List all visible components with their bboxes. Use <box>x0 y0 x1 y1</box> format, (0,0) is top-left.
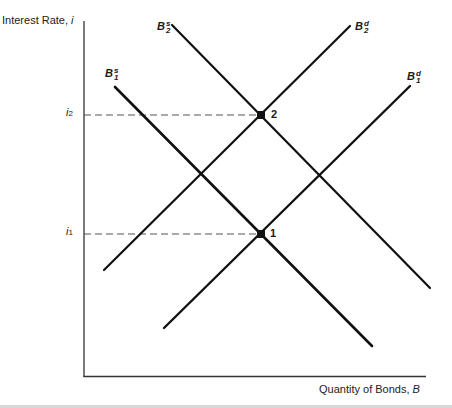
label-b1d: Bd1 <box>407 70 421 84</box>
label-b2s-sub: 2 <box>166 27 170 34</box>
supply-curve-b2s <box>172 25 430 288</box>
label-b2s: Bs2 <box>157 20 170 34</box>
label-b2s-base: B <box>157 20 165 32</box>
y-axis-label: Interest Rate, i <box>2 14 74 26</box>
supply-curve-b1s <box>115 87 372 346</box>
tick-i2: i2 <box>66 106 73 118</box>
y-axis-label-text: Interest Rate, <box>2 14 71 26</box>
equilibrium-point-2 <box>257 111 265 119</box>
y-axis-label-var: i <box>71 14 73 26</box>
demand-curve-b2d <box>104 26 350 270</box>
x-axis-label-text: Quantity of Bonds, <box>319 383 413 395</box>
tick-i1: i1 <box>66 225 73 237</box>
tick-i2-sub: 2 <box>68 109 72 118</box>
point-label-2: 2 <box>271 108 277 120</box>
point-label-1: 1 <box>270 227 276 239</box>
label-b1d-sub: 1 <box>416 77 421 84</box>
label-b2d: Bd2 <box>355 20 369 34</box>
label-b2d-base: B <box>355 20 363 32</box>
equilibrium-point-1 <box>257 230 265 238</box>
x-axis-label-var: B <box>413 383 420 395</box>
label-b1s-base: B <box>105 67 113 79</box>
tick-i1-sub: 1 <box>68 228 72 237</box>
label-b1d-base: B <box>407 70 415 82</box>
label-b1s: Bs1 <box>105 67 118 81</box>
label-b2d-sub: 2 <box>364 27 369 34</box>
diagram-canvas <box>0 0 452 408</box>
demand-curve-b1d <box>164 86 410 328</box>
x-axis-label: Quantity of Bonds, B <box>319 383 420 395</box>
label-b1s-sub: 1 <box>114 74 118 81</box>
